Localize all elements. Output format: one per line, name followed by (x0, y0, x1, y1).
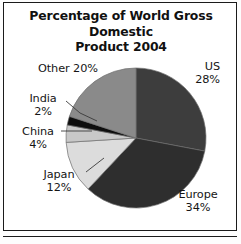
pie-label-other: Other 20% (38, 62, 116, 75)
pie-label-europe: Europe 34% (170, 188, 226, 214)
pie-label-us: US 28% (176, 60, 220, 86)
chart-page: Percentage of World Gross Domestic Produ… (0, 0, 241, 244)
pie-label-japan: Japan 12% (34, 168, 84, 194)
bottom-divider (3, 236, 237, 237)
pie-label-china: China 4% (16, 125, 60, 151)
pie-label-india: India 2% (20, 92, 66, 118)
pie-slice-group (66, 68, 206, 208)
